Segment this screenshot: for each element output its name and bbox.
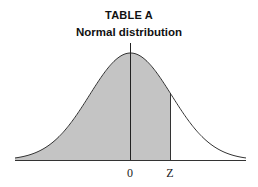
shaded-area — [15, 53, 171, 160]
normal-distribution-chart: 0 Z — [0, 0, 258, 187]
tick-label-z: Z — [166, 166, 173, 180]
tick-label-zero: 0 — [127, 166, 133, 180]
